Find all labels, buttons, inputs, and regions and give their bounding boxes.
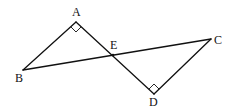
label-e: E xyxy=(110,38,117,52)
right-angle-mark-a xyxy=(71,27,81,32)
point-e-dot xyxy=(112,54,115,57)
segment-ad xyxy=(76,22,154,94)
right-angle-mark-d xyxy=(149,84,159,89)
label-d: D xyxy=(149,95,158,109)
label-c: C xyxy=(214,33,222,47)
geometry-diagram: A B C D E xyxy=(0,0,229,110)
label-b: B xyxy=(15,71,23,85)
label-a: A xyxy=(72,5,81,19)
